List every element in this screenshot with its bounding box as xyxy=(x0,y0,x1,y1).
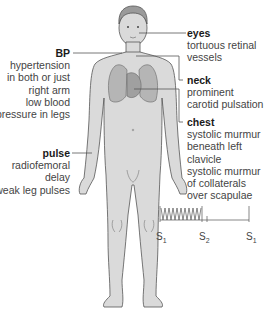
chest-title: chest xyxy=(187,116,261,128)
neck-annotation: neck prominent carotid pulsation xyxy=(187,74,263,111)
neck-title: neck xyxy=(187,74,263,86)
chest-line: of collaterals xyxy=(187,177,261,189)
heart-sound-label-s2: S2 xyxy=(199,231,210,244)
heart-sound-label-s1-second: S1 xyxy=(246,231,257,244)
pulse-line: weak leg pulses xyxy=(0,184,70,196)
human-body-illustration xyxy=(79,6,187,307)
bp-line: in both or just xyxy=(0,71,70,83)
pulse-annotation: pulse radiofemoral delay weak leg pulses xyxy=(0,147,70,196)
bp-line: hypertension xyxy=(0,59,70,71)
chest-line: over scapulae xyxy=(187,189,261,201)
chest-annotation: chest systolic murmur beneath left clavi… xyxy=(187,116,261,201)
bp-title: BP xyxy=(0,47,70,59)
phonocardiogram xyxy=(160,206,249,222)
pulse-line: delay xyxy=(0,171,70,183)
bp-line: pressure in legs xyxy=(0,108,70,120)
chest-line: beneath left xyxy=(187,140,261,152)
neck-line: carotid pulsation xyxy=(187,98,263,110)
pulse-title: pulse xyxy=(0,147,70,159)
neck-line: prominent xyxy=(187,86,263,98)
eyes-title: eyes xyxy=(187,27,256,39)
eyes-line: vessels xyxy=(187,51,256,63)
bp-line: right arm xyxy=(0,84,70,96)
chest-line: systolic murmur xyxy=(187,165,261,177)
heart-sound-label-s1-first: S1 xyxy=(156,231,167,244)
chest-line: systolic murmur xyxy=(187,128,261,140)
pulse-line: radiofemoral xyxy=(0,159,70,171)
bp-annotation: BP hypertension in both or just right ar… xyxy=(0,47,70,120)
eyes-annotation: eyes tortuous retinal vessels xyxy=(187,27,256,64)
bp-line: low blood xyxy=(0,96,70,108)
chest-line: clavicle xyxy=(187,153,261,165)
eyes-line: tortuous retinal xyxy=(187,39,256,51)
